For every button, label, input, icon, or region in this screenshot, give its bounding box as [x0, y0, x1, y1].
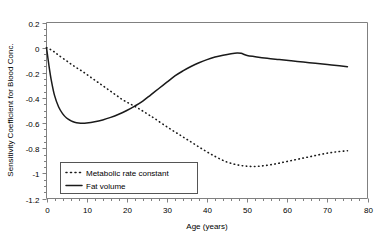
x-tick-label: 10 — [83, 206, 92, 215]
y-tick-label: -0.8 — [26, 145, 40, 154]
y-tick-label: -1 — [32, 170, 40, 179]
chart-legend: Metabolic rate constant Fat volume — [61, 163, 198, 194]
sensitivity-coefficient-line-chart: 0.20-0.2-0.4-0.6-0.8-1-1.2 0102030405060… — [0, 0, 382, 244]
y-tick-label: -1.2 — [26, 196, 40, 205]
y-tick-label: 0 — [35, 45, 40, 54]
y-axis-title: Sensitivity Coefficient for Blood Conc. — [6, 43, 15, 176]
legend-label-metabolic-rate-constant: Metabolic rate constant — [86, 169, 169, 178]
x-tick-label: 60 — [283, 206, 292, 215]
chart-page: 0.20-0.2-0.4-0.6-0.8-1-1.2 0102030405060… — [0, 0, 382, 244]
y-tick-label: -0.6 — [26, 120, 40, 129]
legend-box — [61, 163, 198, 194]
x-tick-label: 20 — [123, 206, 132, 215]
legend-label-fat-volume: Fat volume — [86, 182, 126, 191]
x-tick-label: 50 — [243, 206, 252, 215]
x-tick-label: 0 — [45, 206, 50, 215]
y-tick-label: -0.4 — [26, 95, 40, 104]
x-tick-label: 70 — [323, 206, 332, 215]
y-tick-label: -0.2 — [26, 70, 40, 79]
x-axis-title: Age (years) — [186, 222, 228, 231]
x-tick-label: 80 — [364, 206, 373, 215]
y-tick-label: 0.2 — [28, 20, 40, 29]
x-tick-label: 40 — [203, 206, 212, 215]
x-tick-label: 30 — [163, 206, 172, 215]
